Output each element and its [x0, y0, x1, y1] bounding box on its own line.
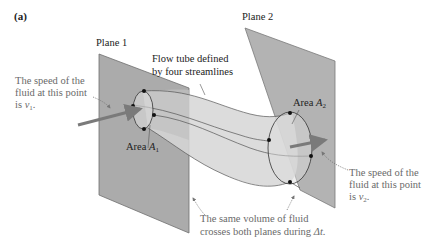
panel-label: (a): [14, 10, 27, 23]
plane-1-label: Plane 1: [96, 37, 127, 48]
flow-tube-diagram: (a) Plane 2 Plane 1 Flow tube defined by…: [0, 0, 431, 247]
volume-note-line-2: crosses both planes during Δt.: [200, 226, 325, 237]
plane-2-label: Plane 2: [242, 11, 273, 22]
streamline-point: [309, 154, 313, 158]
speed-1-note-line-3: is v1.: [15, 99, 35, 112]
streamline-point: [142, 127, 146, 131]
streamline-point: [142, 89, 146, 93]
speed-2-note-line-2: fluid at this point: [349, 179, 421, 190]
streamline-point: [267, 138, 271, 142]
tube-label-leader: [200, 84, 205, 95]
streamline-point: [288, 180, 292, 184]
tube-label-line-1: Flow tube defined: [152, 53, 229, 64]
speed-1-note-line-2: fluid at this point: [15, 87, 87, 98]
speed-2-note-line-1: The speed of the: [349, 167, 419, 178]
speed-1-note-line-1: The speed of the: [15, 75, 85, 86]
volume-leader-2: [287, 196, 294, 210]
streamline-point: [131, 104, 135, 108]
streamline-point: [288, 111, 292, 115]
volume-note-line-1: The same volume of fluid: [200, 213, 309, 224]
area-2-ellipse: [268, 112, 312, 184]
speed-2-note-line-3: is v2.: [349, 191, 369, 204]
tube-label-line-2: by four streamlines: [152, 66, 233, 77]
streamline-point: [152, 113, 156, 117]
